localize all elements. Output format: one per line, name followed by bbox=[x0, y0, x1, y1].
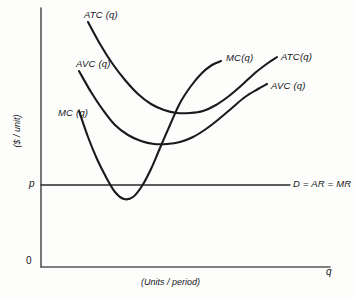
mc-left-label: MC (q) bbox=[58, 107, 88, 118]
q-axis-symbol: q bbox=[326, 266, 332, 277]
avc-left-label: AVC (q) bbox=[76, 58, 111, 69]
atc-left-label: ATC (q) bbox=[84, 9, 118, 20]
x-axis-label: (Units / period) bbox=[141, 277, 200, 287]
origin-label: 0 bbox=[26, 255, 32, 266]
average-variable-cost-curve bbox=[79, 71, 267, 144]
y-axis-label: ($ / unit) bbox=[12, 101, 22, 161]
demand-line-label: D = AR = MR bbox=[293, 178, 351, 189]
chart-canvas bbox=[0, 0, 356, 299]
marginal-cost-curve bbox=[79, 61, 221, 199]
atc-right-label: ATC(q) bbox=[281, 51, 312, 62]
avc-right-label: AVC (q) bbox=[271, 80, 306, 91]
price-tick-label: p bbox=[29, 178, 35, 189]
mc-right-label: MC(q) bbox=[226, 52, 253, 63]
cost-curves-figure: ATC (q) AVC (q) MC (q) MC(q) ATC(q) AVC … bbox=[0, 0, 356, 299]
